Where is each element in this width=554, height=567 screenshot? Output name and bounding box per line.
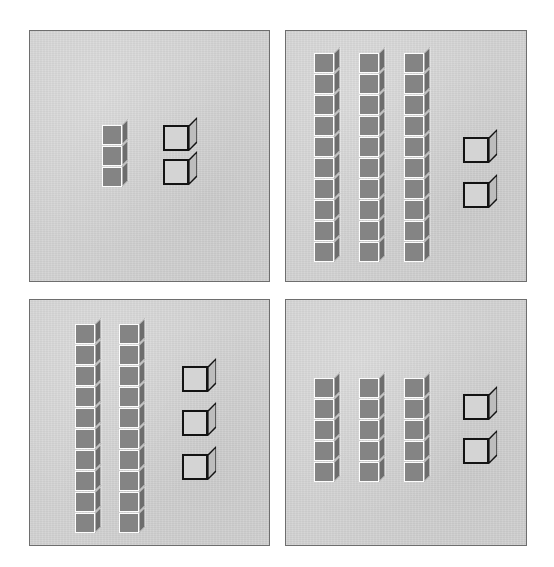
cube-front-face <box>314 179 334 199</box>
cube-front-face <box>102 146 122 166</box>
cube-front-face <box>314 221 334 241</box>
ten-rod[interactable] <box>359 372 387 485</box>
cube-front-face <box>75 429 95 449</box>
panel-bottom-left[interactable] <box>29 299 270 546</box>
cube-front-face <box>75 408 95 428</box>
cube-front-face <box>314 242 334 262</box>
cube-front-face <box>404 200 424 220</box>
rod-cube <box>102 119 122 139</box>
cube-front-face <box>404 378 424 398</box>
unit-cube-front-face <box>463 438 489 464</box>
ten-rod[interactable] <box>119 318 147 536</box>
cube-front-face <box>314 158 334 178</box>
cube-front-face <box>404 441 424 461</box>
cube-front-face <box>75 345 95 365</box>
cube-front-face <box>314 200 334 220</box>
cube-front-face <box>314 378 334 398</box>
cube-front-face <box>359 420 379 440</box>
cube-front-face <box>359 200 379 220</box>
cube-front-face <box>75 387 95 407</box>
rod-cube <box>314 47 334 67</box>
rod-cube <box>404 372 424 392</box>
unit-cube-front-face <box>463 137 489 163</box>
unit-cube[interactable] <box>463 386 489 412</box>
rod-cube <box>359 372 379 392</box>
ten-rod[interactable] <box>102 119 130 190</box>
cube-front-face <box>314 462 334 482</box>
cube-front-face <box>359 95 379 115</box>
cube-front-face <box>404 420 424 440</box>
cube-front-face <box>359 179 379 199</box>
cube-front-face <box>404 221 424 241</box>
cube-front-face <box>102 125 122 145</box>
ten-rod[interactable] <box>404 47 432 265</box>
unit-cube-side-face <box>189 151 197 185</box>
cube-front-face <box>359 242 379 262</box>
unit-cube[interactable] <box>463 129 489 155</box>
cube-front-face <box>404 399 424 419</box>
cube-front-face <box>359 74 379 94</box>
cube-front-face <box>404 242 424 262</box>
cube-front-face <box>314 116 334 136</box>
cube-front-face <box>404 179 424 199</box>
cube-front-face <box>75 471 95 491</box>
cube-front-face <box>404 74 424 94</box>
cube-front-face <box>404 158 424 178</box>
cube-front-face <box>314 441 334 461</box>
cube-front-face <box>404 137 424 157</box>
unit-cube[interactable] <box>463 430 489 456</box>
panel-top-left[interactable] <box>29 30 270 282</box>
cube-front-face <box>314 74 334 94</box>
unit-cube-front-face <box>182 366 208 392</box>
worksheet-canvas <box>0 0 554 567</box>
blocks-area-panel-4 <box>286 300 526 545</box>
ten-rod[interactable] <box>404 372 432 485</box>
unit-cube-front-face <box>463 182 489 208</box>
rod-cube <box>404 47 424 67</box>
unit-cube[interactable] <box>182 402 208 428</box>
cube-front-face <box>119 492 139 512</box>
unit-cube-front-face <box>163 125 189 151</box>
cube-front-face <box>314 399 334 419</box>
cube-front-face <box>75 366 95 386</box>
unit-cube[interactable] <box>182 358 208 384</box>
panel-top-right[interactable] <box>285 30 527 282</box>
cube-front-face <box>359 116 379 136</box>
unit-cube-side-face <box>208 402 216 436</box>
cube-front-face <box>404 53 424 73</box>
cube-front-face <box>404 116 424 136</box>
ten-rod[interactable] <box>314 372 342 485</box>
ten-rod[interactable] <box>75 318 103 536</box>
cube-front-face <box>359 441 379 461</box>
cube-front-face <box>314 137 334 157</box>
cube-front-face <box>75 324 95 344</box>
unit-cube[interactable] <box>463 174 489 200</box>
ten-rod[interactable] <box>314 47 342 265</box>
unit-cube-side-face <box>189 117 197 151</box>
cube-front-face <box>119 387 139 407</box>
blocks-area-panel-1 <box>30 31 269 281</box>
cube-front-face <box>119 471 139 491</box>
rod-cube <box>119 318 139 338</box>
unit-cube-side-face <box>208 446 216 480</box>
cube-front-face <box>119 429 139 449</box>
cube-front-face <box>359 221 379 241</box>
cube-front-face <box>75 450 95 470</box>
cube-front-face <box>119 450 139 470</box>
cube-front-face <box>314 420 334 440</box>
rod-cube <box>359 47 379 67</box>
cube-front-face <box>119 324 139 344</box>
unit-cube[interactable] <box>163 117 189 143</box>
unit-cube[interactable] <box>182 446 208 472</box>
unit-cube[interactable] <box>163 151 189 177</box>
rod-cube <box>75 318 95 338</box>
cube-front-face <box>359 158 379 178</box>
unit-cube-side-face <box>489 174 497 208</box>
unit-cube-front-face <box>163 159 189 185</box>
cube-front-face <box>359 399 379 419</box>
unit-cube-front-face <box>182 410 208 436</box>
cube-front-face <box>119 408 139 428</box>
panel-bottom-right[interactable] <box>285 299 527 546</box>
cube-front-face <box>359 137 379 157</box>
ten-rod[interactable] <box>359 47 387 265</box>
